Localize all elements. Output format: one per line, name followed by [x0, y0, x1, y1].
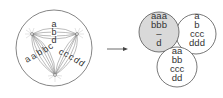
node-bottom [54, 74, 57, 77]
set-text: dd [172, 72, 183, 83]
set-text: d [156, 37, 161, 48]
edge-label: d [51, 35, 56, 45]
labels-left: a a b b c [22, 41, 55, 65]
labels-top: a b d [51, 19, 57, 45]
set-text: ddd [189, 37, 205, 48]
right-sets: aaa bbb – d a b ccc ddd aa bb ccc dd [139, 10, 216, 87]
node-top-right [76, 33, 79, 36]
diagram-canvas: a b d a a b b c c c c d d aaa [0, 0, 223, 98]
arrow-right-icon [107, 47, 128, 51]
left-graph: a b d a a b b c c c c d d [16, 10, 92, 86]
node-top-left [31, 33, 34, 36]
